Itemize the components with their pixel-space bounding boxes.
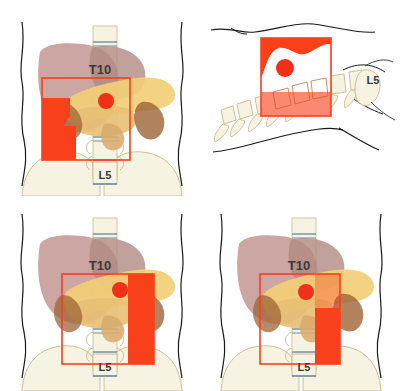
scan-shaded-region [128, 274, 154, 364]
label-t10: T10 [89, 258, 111, 273]
label-l5: L5 [367, 74, 380, 86]
label-l5: L5 [99, 169, 112, 181]
panel-top-left: T10 L5 [0, 0, 203, 196]
label-t10: T10 [89, 62, 111, 77]
marker-dot [276, 59, 294, 77]
scan-shaded-region [261, 38, 331, 116]
panel-top-right: L5 [203, 0, 405, 196]
medical-illustration-figure: T10 L5 [0, 0, 405, 391]
scan-shaded-region [315, 274, 340, 364]
marker-dot [298, 284, 314, 300]
marker-dot [112, 282, 128, 298]
panel-bottom-left: T10 L5 [0, 196, 203, 391]
marker-dot [98, 93, 114, 109]
label-l5: L5 [298, 361, 311, 373]
label-l5: L5 [99, 361, 112, 373]
label-t10: T10 [288, 258, 310, 273]
panel-bottom-right: T10 L5 [203, 196, 405, 391]
